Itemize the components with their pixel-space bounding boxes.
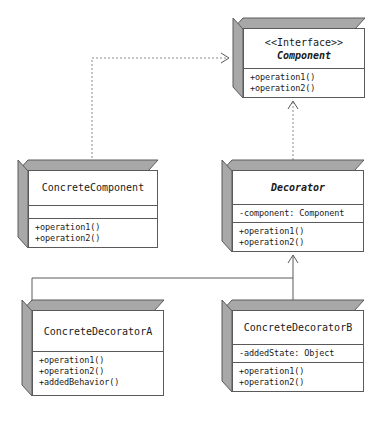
operations-compartment-concrete-decorator-b: +operation1() +operation2() (233, 362, 363, 391)
operations-compartment-component: +operation1() +operation2() (244, 68, 364, 97)
operation-row: +operation1() (239, 226, 357, 237)
class-title-component: Component (277, 49, 331, 62)
class-title-decorator: Decorator (271, 181, 325, 194)
class-title-concrete-component: ConcreteComponent (42, 181, 144, 194)
class-name-compartment-concrete-component: ConcreteComponent (29, 171, 157, 205)
class-name-compartment-component: <<Interface>> Component (244, 29, 364, 68)
operation-row: +operation1() (35, 222, 151, 233)
operations-compartment-concrete-component: +operation1() +operation2() (29, 218, 157, 247)
realization-concrete-component-to-component (92, 58, 228, 170)
operation-row: +operation2() (39, 366, 157, 377)
class-box-decorator[interactable]: Decorator -component: Component +operati… (222, 160, 364, 252)
operation-row: +addedBehavior() (39, 377, 157, 388)
operations-compartment-concrete-decorator-a: +operation1() +operation2() +addedBehavi… (33, 351, 163, 391)
class-box-concrete-decorator-b[interactable]: ConcreteDecoratorB -addedState: Object +… (222, 300, 364, 392)
operation-row: +operation1() (39, 355, 157, 366)
operation-row: +operation2() (35, 233, 151, 244)
class-title-concrete-decorator-a: ConcreteDecoratorA (44, 325, 152, 338)
operation-row: +operation2() (239, 237, 357, 248)
class-name-compartment-concrete-decorator-b: ConcreteDecoratorB (233, 311, 363, 344)
class-box-concrete-component[interactable]: ConcreteComponent +operation1() +operati… (18, 160, 158, 248)
class-box-component[interactable]: <<Interface>> Component +operation1() +o… (233, 18, 365, 98)
class-box-concrete-decorator-a[interactable]: ConcreteDecoratorA +operation1() +operat… (22, 300, 164, 396)
class-name-compartment-concrete-decorator-a: ConcreteDecoratorA (33, 311, 163, 351)
operations-compartment-decorator: +operation1() +operation2() (233, 222, 363, 251)
attributes-compartment-concrete-component (29, 205, 157, 218)
operation-row: +operation1() (250, 72, 358, 83)
operation-row: +operation2() (250, 83, 358, 94)
operation-row: +operation2() (239, 377, 357, 388)
class-title-concrete-decorator-b: ConcreteDecoratorB (244, 321, 352, 334)
operation-row: +operation1() (239, 366, 357, 377)
attributes-compartment-decorator: -component: Component (233, 204, 363, 222)
class-stereotype-component: <<Interface>> (265, 36, 343, 49)
attribute-row: -component: Component (239, 208, 357, 219)
attribute-row: -addedState: Object (239, 348, 357, 359)
class-name-compartment-decorator: Decorator (233, 171, 363, 204)
attributes-compartment-concrete-decorator-b: -addedState: Object (233, 344, 363, 362)
uml-class-diagram: <<Interface>> Component +operation1() +o… (0, 0, 375, 421)
